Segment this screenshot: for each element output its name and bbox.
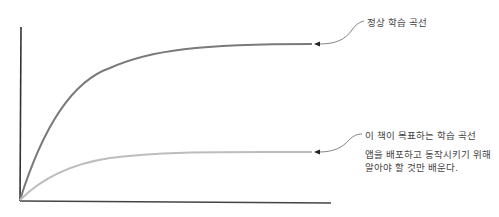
target-curve-label: 이 책이 목표하는 학습 곡선 bbox=[365, 129, 476, 143]
normal-learning-curve bbox=[20, 44, 312, 200]
y-axis bbox=[20, 27, 21, 201]
target-learning-curve bbox=[20, 152, 312, 200]
target-curve-description: 앱을 배포하고 동작시키기 위해 알아야 할 것만 배운다. bbox=[365, 148, 491, 174]
description-line-2: 알아야 할 것만 배운다. bbox=[365, 161, 491, 174]
normal-curve-callout-line bbox=[319, 21, 364, 44]
learning-curve-diagram bbox=[0, 0, 499, 217]
target-curve-callout-line bbox=[319, 134, 362, 152]
arrowhead-icon bbox=[314, 150, 320, 155]
normal-curve-label: 정상 학습 곡선 bbox=[367, 16, 427, 30]
description-line-1: 앱을 배포하고 동작시키기 위해 bbox=[365, 148, 491, 161]
x-axis bbox=[20, 201, 331, 203]
arrowhead-icon bbox=[314, 42, 320, 47]
